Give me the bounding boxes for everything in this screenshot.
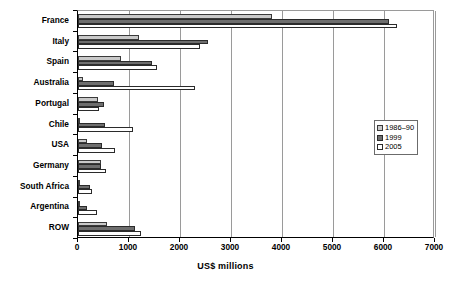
- bar-chart: FranceItalySpainAustraliaPortugalChileUS…: [0, 0, 451, 284]
- category-label: Australia: [33, 78, 69, 86]
- bar: [78, 231, 141, 236]
- category-label: Portugal: [35, 99, 69, 107]
- bar: [78, 210, 97, 215]
- legend-item: 1999: [377, 133, 414, 142]
- legend-swatch-icon: [377, 135, 383, 141]
- legend-item: 1986–90: [377, 124, 414, 133]
- category-label: Italy: [52, 37, 69, 45]
- bar-group: [78, 177, 433, 198]
- bar: [78, 107, 99, 112]
- legend-label: 2005: [385, 143, 402, 151]
- bar: [78, 44, 200, 49]
- bar-group: [78, 73, 433, 94]
- category-label: Argentina: [30, 202, 69, 210]
- bar: [78, 24, 397, 29]
- bar: [78, 189, 92, 194]
- x-axis-tick-label: 4000: [272, 243, 290, 251]
- legend-label: 1986–90: [385, 124, 414, 132]
- bar: [78, 65, 157, 70]
- bar-group: [78, 32, 433, 53]
- bar: [78, 169, 106, 174]
- x-axis-title: US$ millions: [0, 261, 451, 271]
- bar-group: [78, 198, 433, 219]
- gridline: [435, 11, 436, 237]
- legend-label: 1999: [385, 134, 402, 142]
- category-label: Germany: [33, 161, 69, 169]
- category-label: USA: [51, 140, 69, 148]
- bar: [78, 127, 133, 132]
- bar: [78, 148, 115, 153]
- category-label: South Africa: [20, 182, 69, 190]
- x-axis-tick-label: 0: [75, 243, 80, 251]
- bar-group: [78, 11, 433, 32]
- category-label: ROW: [49, 223, 69, 231]
- bar-group: [78, 94, 433, 115]
- category-label: Spain: [46, 57, 69, 65]
- bar-group: [78, 156, 433, 177]
- legend: 1986–9019992005: [374, 120, 418, 155]
- category-label: Chile: [49, 120, 69, 128]
- x-axis-tick-label: 5000: [323, 243, 341, 251]
- legend-swatch-icon: [377, 125, 383, 131]
- legend-swatch-icon: [377, 144, 383, 150]
- x-axis-tick-label: 1000: [119, 243, 137, 251]
- bar-group: [78, 52, 433, 73]
- x-axis-tick-label: 3000: [221, 243, 239, 251]
- bar-group: [78, 218, 433, 239]
- x-axis-tick-labels: 01000200030004000500060007000: [0, 243, 451, 255]
- category-axis: FranceItalySpainAustraliaPortugalChileUS…: [0, 10, 74, 238]
- category-label: France: [42, 16, 69, 24]
- legend-item: 2005: [377, 143, 414, 152]
- x-axis-tick-label: 2000: [170, 243, 188, 251]
- x-axis-tick-label: 7000: [425, 243, 443, 251]
- bar: [78, 86, 195, 91]
- x-axis-tick-label: 6000: [374, 243, 392, 251]
